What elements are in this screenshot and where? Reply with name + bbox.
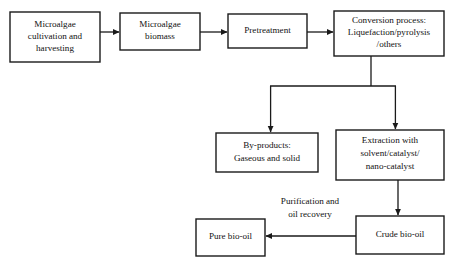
flowchart-canvas: Microalgae cultivation and harvesting Mi… (0, 0, 451, 271)
node-conversion-process-line-2: Liquefaction/pyrolysis (348, 27, 431, 37)
edge-label-purification-line-1: Purification and (281, 196, 340, 206)
node-by-products-line-2: Gaseous and solid (234, 153, 301, 163)
node-extraction-line-3: nano-catalyst (366, 161, 415, 171)
node-microalgae-biomass-line-2: biomass (145, 31, 175, 41)
node-conversion-process-line-1: Conversion process: (352, 15, 426, 25)
node-by-products-line-1: By-products: (243, 140, 291, 150)
node-pure-bio-oil-line-1: Pure bio-oil (209, 231, 253, 241)
node-extraction-line-2: solvent/catalyst/ (360, 148, 420, 158)
node-microalgae-cultivation-line-2: cultivation and (28, 31, 83, 41)
node-conversion-process-line-3: /others (377, 39, 402, 49)
node-microalgae-cultivation-line-1: Microalgae (34, 19, 75, 29)
flowchart-diagram: Microalgae cultivation and harvesting Mi… (0, 0, 451, 271)
node-microalgae-biomass-line-1: Microalgae (139, 19, 180, 29)
edge-label-purification-line-2: oil recovery (288, 209, 332, 219)
node-crude-bio-oil-line-1: Crude bio-oil (376, 229, 425, 239)
node-extraction-line-1: Extraction with (362, 135, 419, 145)
node-microalgae-cultivation-line-3: harvesting (36, 43, 74, 53)
node-pretreatment-line-1: Pretreatment (244, 25, 291, 35)
